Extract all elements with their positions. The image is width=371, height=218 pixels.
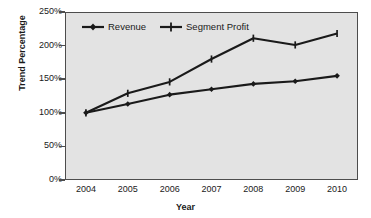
plot-area [65, 12, 358, 180]
y-axis-tick-label: 0% [18, 175, 62, 184]
x-axis-tick-label: 2006 [148, 184, 192, 194]
plus-marker-icon [160, 22, 182, 32]
legend-label-revenue: Revenue [108, 21, 146, 32]
y-axis-tick-mark [59, 112, 65, 114]
y-axis-tick-label: 50% [18, 141, 62, 150]
x-axis-tick-label: 2004 [64, 184, 108, 194]
y-axis-tick-mark [59, 179, 65, 181]
y-axis-tick-label: 100% [18, 108, 62, 117]
y-axis-tick-mark [59, 78, 65, 80]
legend-label-segment-profit: Segment Profit [186, 21, 249, 32]
x-axis-tick-label: 2008 [231, 184, 275, 194]
y-axis-tick-label: 250% [18, 7, 62, 16]
y-axis-tick-mark [59, 146, 65, 148]
y-axis-tick-mark [59, 45, 65, 47]
legend-item-revenue[interactable]: Revenue [82, 21, 146, 32]
legend-item-segment-profit[interactable]: Segment Profit [160, 21, 249, 32]
y-axis-tick-mark [59, 11, 65, 13]
y-axis-tick-label: 150% [18, 74, 62, 83]
x-axis-tick-label: 2010 [315, 184, 359, 194]
trend-percentage-line-chart: Trend Percentage 0%50%100%150%200%250% R… [0, 0, 371, 218]
x-axis-tick-label: 2009 [273, 184, 317, 194]
x-axis-tick-label: 2005 [106, 184, 150, 194]
chart-legend: Revenue Segment Profit [82, 21, 249, 32]
x-axis-tick-label: 2007 [190, 184, 234, 194]
x-axis-title: Year [0, 202, 371, 212]
y-axis-tick-label: 200% [18, 41, 62, 50]
diamond-marker-icon [82, 22, 104, 32]
y-axis-tick-labels: 0%50%100%150%200%250% [14, 0, 62, 218]
